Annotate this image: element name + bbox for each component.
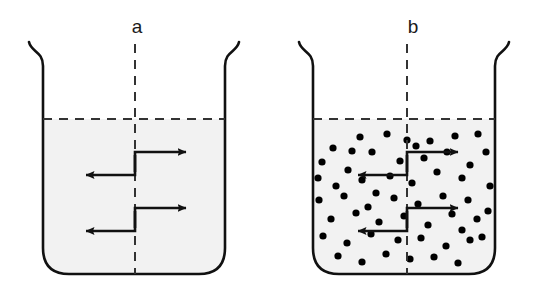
solute-particle xyxy=(314,174,321,181)
solute-particle xyxy=(486,182,493,189)
solute-particle xyxy=(430,253,437,260)
diagram-figure: ab xyxy=(0,0,539,288)
solute-particle xyxy=(433,168,440,175)
solute-particle xyxy=(390,194,397,201)
diagram-canvas: ab xyxy=(0,0,539,288)
solute-particle xyxy=(348,147,355,154)
solute-particle xyxy=(466,161,473,168)
panel-label: a xyxy=(132,16,143,37)
solute-particle xyxy=(352,209,359,216)
solute-particle xyxy=(315,196,322,203)
solute-particle xyxy=(358,176,365,183)
solute-particle xyxy=(375,218,382,225)
solute-particle xyxy=(442,242,449,249)
solute-particle xyxy=(343,239,350,246)
solute-particle xyxy=(327,215,334,222)
solute-particle xyxy=(356,133,363,140)
solute-particle xyxy=(482,148,489,155)
solute-particle xyxy=(466,236,473,243)
solute-particle xyxy=(358,258,365,265)
solute-particle xyxy=(332,182,339,189)
solute-particle xyxy=(473,215,480,222)
solute-particle xyxy=(329,144,336,151)
solute-particle xyxy=(451,132,458,139)
solute-particle xyxy=(334,252,341,259)
solute-particle xyxy=(319,232,326,239)
solute-particle xyxy=(318,158,325,165)
solute-particle xyxy=(464,196,471,203)
solute-particle xyxy=(396,157,403,164)
solute-particle xyxy=(383,130,390,137)
solute-particle xyxy=(382,250,389,257)
panel-label: b xyxy=(408,16,419,37)
solute-particle xyxy=(372,189,379,196)
solute-particle xyxy=(344,166,351,173)
solute-particle xyxy=(394,236,401,243)
solute-particle xyxy=(474,130,481,137)
solute-particle xyxy=(439,192,446,199)
solute-particle xyxy=(478,233,485,240)
solute-particle xyxy=(364,203,371,210)
solute-particle xyxy=(484,207,491,214)
solute-particle xyxy=(340,192,347,199)
solute-particle xyxy=(414,200,421,207)
solute-particle xyxy=(454,259,461,266)
solute-particle xyxy=(458,174,465,181)
solute-particle xyxy=(448,210,455,217)
solute-particle xyxy=(458,226,465,233)
solute-particle xyxy=(412,142,419,149)
solute-particle xyxy=(417,234,424,241)
solute-particle xyxy=(424,221,431,228)
solute-particle xyxy=(368,148,375,155)
solute-particle xyxy=(426,137,433,144)
solute-particle xyxy=(408,179,415,186)
solute-particle xyxy=(420,154,427,161)
